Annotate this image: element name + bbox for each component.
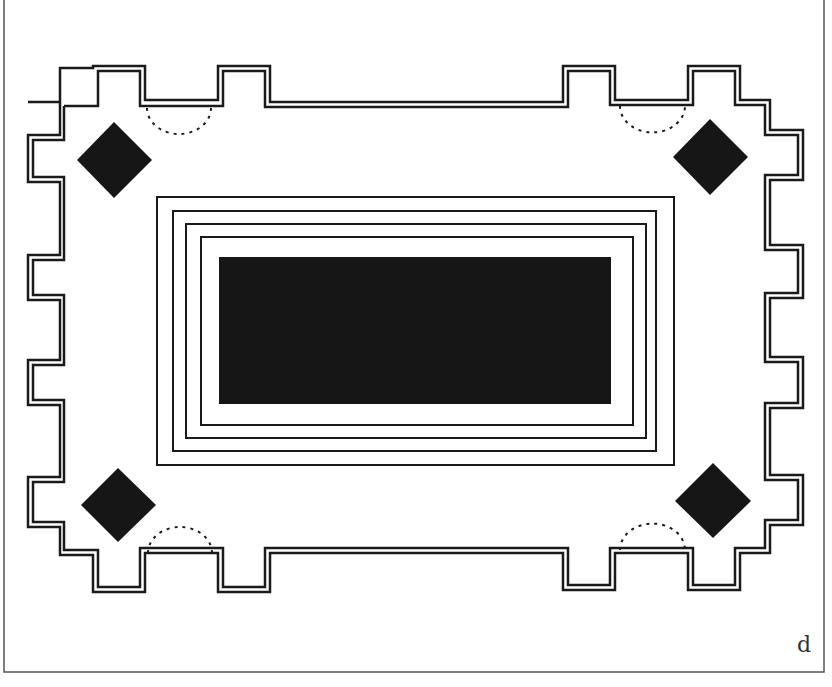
diamond-top-right [673,119,748,195]
panel-label: d [797,632,811,657]
door-arc-top-left [147,108,211,134]
door-arc-bottom-right [620,524,685,550]
diamond-bottom-left [81,468,156,542]
door-arc-top-right [620,106,685,132]
central-block [219,257,611,404]
diamond-bottom-right [675,463,751,538]
plan-diagram [0,0,832,687]
diamond-top-left [77,122,152,198]
